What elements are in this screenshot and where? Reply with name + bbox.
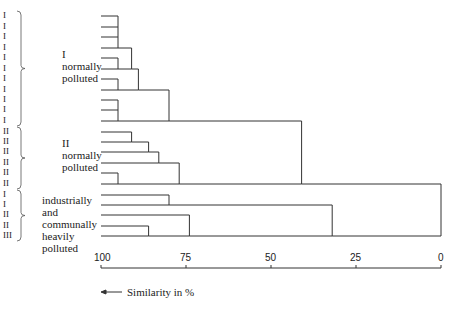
tick-label-25: 25 <box>350 252 361 263</box>
leaf-label: I <box>3 42 6 53</box>
leaf-label: II <box>3 126 9 137</box>
leaf-label: I <box>3 84 6 95</box>
leaf-label: I <box>3 94 6 105</box>
leaf-label: I <box>3 199 6 210</box>
leaf-label: I <box>3 21 6 32</box>
leaf-label: I <box>3 52 6 63</box>
leaf-label: II <box>3 209 9 220</box>
leaf-label: II <box>3 136 9 147</box>
tick-label-100: 100 <box>94 252 111 263</box>
group-label-line: normally <box>62 149 102 161</box>
group-brace <box>17 190 25 241</box>
left-arrow-icon <box>101 290 122 294</box>
group-braces <box>17 11 25 241</box>
group-brace <box>17 127 25 189</box>
tick-label-0: 0 <box>438 252 444 263</box>
group-label-line: communally <box>42 218 97 230</box>
leaf-label: II <box>3 146 9 157</box>
leaf-label: II <box>3 167 9 178</box>
group-label-line: I <box>62 48 102 60</box>
dendrogram-tree <box>101 16 441 236</box>
leaf-label: I <box>3 31 6 42</box>
leaf-label: I <box>3 63 6 74</box>
group-label-line: polluted <box>62 72 102 84</box>
group-label-line: heavily <box>42 230 97 242</box>
leaf-label: II <box>3 157 9 168</box>
group-label-line: industrially <box>42 194 97 206</box>
group-label-line: normally <box>62 60 102 72</box>
leaf-label: II <box>3 220 9 231</box>
group-label-line: and <box>42 206 97 218</box>
group-label-2: II normally polluted <box>62 137 102 173</box>
group-label-line: polluted <box>62 161 102 173</box>
leaf-label: I <box>3 10 6 21</box>
group-brace <box>17 11 25 126</box>
group-label-1: I normally polluted <box>62 48 102 84</box>
tick-label-75: 75 <box>180 252 191 263</box>
leaf-label: I <box>3 104 6 115</box>
arrow-head <box>101 290 106 294</box>
group-label-3: industrially and communally heavily poll… <box>42 194 97 254</box>
leaf-label: II <box>3 178 9 189</box>
group-label-line: II <box>62 137 102 149</box>
x-axis-label: Similarity in % <box>127 286 194 298</box>
leaf-label: III <box>3 230 12 241</box>
leaf-label: I <box>3 115 6 126</box>
tick-label-50: 50 <box>265 252 276 263</box>
leaf-label: I <box>3 189 6 200</box>
leaf-label: I <box>3 73 6 84</box>
x-axis <box>101 265 441 268</box>
group-label-line: polluted <box>42 242 97 254</box>
